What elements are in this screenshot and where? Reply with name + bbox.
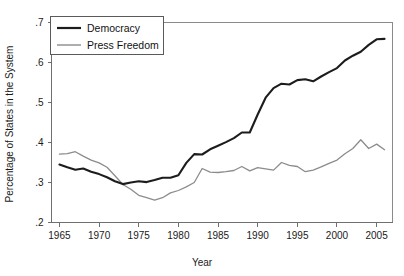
x-tick-label: 1970: [88, 230, 111, 241]
y-tick-label: .6: [35, 57, 44, 68]
y-tick-label: .5: [35, 97, 44, 108]
x-tick-label: 1980: [167, 230, 190, 241]
x-tick-label: 1965: [48, 230, 71, 241]
x-tick-label: 2000: [326, 230, 349, 241]
x-axis-ticks: 196519701975198019851990199520002005: [48, 223, 388, 241]
legend-label-democracy: Democracy: [87, 22, 141, 34]
legend-label-press-freedom: Press Freedom: [87, 39, 159, 51]
y-tick-label: .7: [35, 17, 44, 28]
x-tick-label: 2005: [366, 230, 389, 241]
x-tick-label: 1995: [286, 230, 309, 241]
x-tick-label: 1990: [247, 230, 270, 241]
line-chart: .2.3.4.5.6.7 196519701975198019851990199…: [0, 0, 404, 276]
chart-legend: Democracy Press Freedom: [51, 17, 164, 55]
y-tick-label: .2: [35, 217, 44, 228]
chart-container: .2.3.4.5.6.7 196519701975198019851990199…: [0, 0, 404, 276]
x-tick-label: 1975: [128, 230, 151, 241]
y-tick-label: .4: [35, 137, 44, 148]
y-tick-label: .3: [35, 177, 44, 188]
x-tick-label: 1985: [207, 230, 230, 241]
x-axis-title: Year: [192, 257, 213, 268]
y-axis-title: Percentage of States in the System: [4, 46, 15, 203]
